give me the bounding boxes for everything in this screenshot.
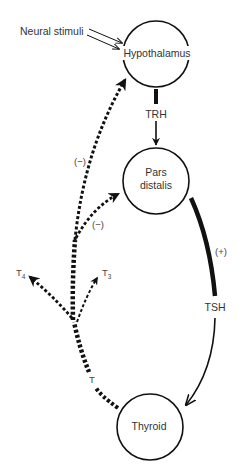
t4-label: T4 xyxy=(16,267,26,280)
tsh-label: TSH xyxy=(205,301,226,313)
pars-distalis-label-line1: Pars xyxy=(145,166,167,178)
pars-distalis-label-line2: distalis xyxy=(140,179,172,191)
neural-stimuli-arrows xyxy=(87,29,122,49)
thyroid-hormone-trunk xyxy=(74,322,118,408)
pars-distalis-node: Pars distalis xyxy=(123,148,189,214)
feedback-pars-distalis-effect: (−) xyxy=(92,219,104,230)
t4-branch-arrow xyxy=(30,277,72,318)
t-label: T xyxy=(89,374,95,385)
hypothalamus-label: Hypothalamus xyxy=(123,47,190,59)
feedback-hypothalamus-effect: (−) xyxy=(74,156,86,167)
t3-label: T3 xyxy=(102,267,112,280)
thyroid-axis-diagram: Neural stimuli Hypothalamus TRH Pars dis… xyxy=(0,0,238,475)
feedback-trunk xyxy=(73,240,75,320)
feedback-pars-distalis-arrow xyxy=(76,194,118,238)
thyroid-label: Thyroid xyxy=(131,420,166,432)
neural-stimuli-label: Neural stimuli xyxy=(20,25,84,37)
tsh-effect-label: (+) xyxy=(215,246,227,257)
trh-label: TRH xyxy=(145,108,167,120)
hypothalamus-node: Hypothalamus xyxy=(120,21,195,87)
thyroid-node: Thyroid xyxy=(117,394,183,460)
t3-branch-arrow xyxy=(77,278,97,322)
